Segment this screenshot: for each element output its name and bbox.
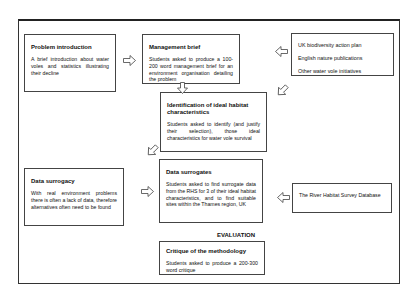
evaluation-label: EVALUATION (196, 232, 276, 238)
box-description: The River Habitat Survey Database (299, 192, 385, 199)
source-item: Other water vole initiatives (298, 68, 387, 74)
critique-box: Critique of the methodology Students ask… (159, 241, 265, 275)
data-surrogacy-box: Data surrogacy With real environment pro… (24, 168, 124, 226)
box-title: Critique of the methodology (166, 248, 258, 255)
sources-list: UK biodiversity action plan English natu… (298, 42, 387, 74)
rhs-database-box: The River Habitat Survey Database (292, 183, 392, 213)
source-item: UK biodiversity action plan (298, 42, 387, 48)
box-title: Management brief (149, 44, 233, 51)
arrow-down-left-icon (146, 144, 159, 157)
box-description: With real environment problems there is … (31, 190, 117, 210)
data-surrogates-box: Data surrogates Students asked to find s… (159, 159, 263, 223)
identification-box: Identification of ideal habitat characte… (160, 92, 267, 152)
box-description: Students asked to produce a 100-200 word… (149, 56, 233, 83)
arrow-left-icon (277, 192, 290, 203)
box-title: Data surrogates (166, 169, 256, 176)
box-title: Identification of ideal habitat characte… (167, 102, 260, 116)
box-description: A brief introduction about water voles a… (31, 56, 109, 76)
box-description: Students asked to produce a 200-300 word… (166, 260, 258, 274)
arrow-right-icon (141, 186, 154, 197)
arrow-right-icon (123, 55, 136, 66)
source-item: English nature publications (298, 55, 387, 61)
management-brief-box: Management brief Students asked to produ… (142, 34, 240, 84)
box-description: Students asked to identify (and justify … (167, 121, 260, 141)
box-title: Problem introduction (31, 44, 109, 51)
box-description: Students asked to find surrogate data fr… (166, 181, 256, 208)
box-title: Data surrogacy (31, 178, 117, 185)
arrow-left-icon (275, 46, 288, 57)
sources-box: UK biodiversity action plan English natu… (291, 33, 394, 76)
arrow-down-left-icon (276, 84, 289, 97)
arrow-down-icon (177, 82, 188, 94)
problem-introduction-box: Problem introduction A brief introductio… (24, 34, 116, 92)
